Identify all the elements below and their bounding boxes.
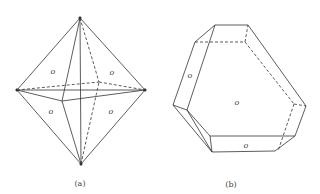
octahedron-drawing [16,17,146,165]
face-label-b3: o [244,141,249,150]
face-label-b2: o [235,98,240,107]
face-label-b1: o [188,71,193,80]
face-label-a3: o [49,107,54,116]
face-label-a4: o [109,107,114,116]
caption-b: (b) [225,180,236,189]
prism-drawing [173,25,306,152]
crystal-figures [0,0,320,194]
face-label-a1: o [51,67,56,76]
face-label-a2: o [110,68,115,77]
caption-a: (a) [74,179,85,188]
